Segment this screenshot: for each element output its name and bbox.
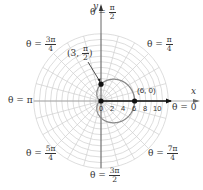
grid-spoke bbox=[53, 101, 101, 149]
data-point bbox=[98, 98, 103, 103]
angle-label-3pi-over-4: θ = 3π4 bbox=[26, 36, 56, 52]
point-label-3-pi-over-2: (3, π2) bbox=[67, 45, 92, 61]
angle-label-zero: θ = 0 bbox=[172, 103, 196, 112]
grid-spoke bbox=[101, 67, 159, 101]
angle-label-5pi-over-4: θ = 5π4 bbox=[26, 145, 56, 161]
data-point bbox=[98, 82, 103, 87]
grid-spoke bbox=[101, 101, 135, 159]
y-axis-label: y bbox=[93, 1, 98, 11]
angle-label-3pi-over-2: θ = 3π2 bbox=[90, 167, 120, 183]
angle-label-pi-over-4: θ = π4 bbox=[147, 36, 173, 52]
tick-0: 0 bbox=[99, 104, 103, 113]
tick-10: 10 bbox=[153, 104, 161, 113]
tick-8: 8 bbox=[143, 104, 147, 113]
tick-4: 4 bbox=[121, 104, 125, 113]
grid-spoke bbox=[43, 101, 101, 135]
polar-graph: θ = π2 θ = π4 θ = 3π4 θ = π θ = 0 θ = 5π… bbox=[0, 0, 203, 190]
point-label-6-0: (6, 0) bbox=[137, 86, 156, 95]
grid-spoke bbox=[67, 101, 101, 159]
pointer-line bbox=[88, 62, 99, 80]
angle-label-pi: θ = π bbox=[8, 96, 33, 105]
tick-6: 6 bbox=[132, 104, 136, 113]
tick-2: 2 bbox=[110, 104, 114, 113]
x-axis-label: x bbox=[191, 86, 196, 96]
angle-label-7pi-over-4: θ = 7π4 bbox=[148, 145, 178, 161]
grid-spoke bbox=[101, 43, 135, 101]
grid-spoke bbox=[43, 67, 101, 101]
data-point bbox=[132, 98, 137, 103]
